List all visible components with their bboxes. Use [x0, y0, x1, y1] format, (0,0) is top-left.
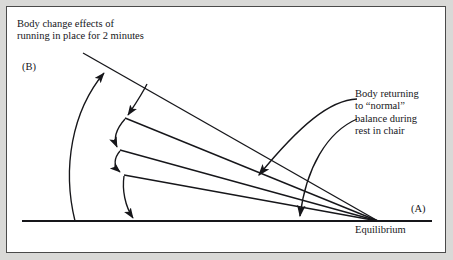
top-annotation-line2: running in place for 2 minutes [17, 30, 144, 41]
right-annotation-line3: balance during [355, 113, 417, 124]
top-annotation-line1: Body change effects of [17, 18, 114, 29]
figure-page: Body change effects of running in place … [0, 0, 453, 260]
point-a-label: (A) [411, 203, 426, 215]
equilibrium-caption: Equilibrium [355, 224, 406, 236]
top-annotation: Body change effects of running in place … [17, 18, 144, 43]
right-annotation: Body returning to “normal” balance durin… [355, 88, 419, 138]
point-b-label: (B) [22, 61, 36, 73]
right-annotation-line1: Body returning [355, 88, 419, 99]
right-annotation-line2: to “normal” [355, 100, 405, 111]
right-annotation-line4: rest in chair [355, 125, 405, 136]
